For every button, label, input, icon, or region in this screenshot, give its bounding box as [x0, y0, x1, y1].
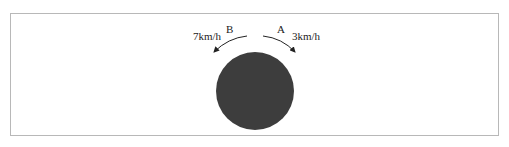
label-point-b: B	[226, 23, 233, 35]
track-circle	[216, 52, 294, 130]
label-point-a: A	[277, 23, 285, 35]
label-speed-a: 3km/h	[292, 30, 320, 42]
arrow-right-clockwise	[263, 36, 295, 52]
label-speed-b: 7km/h	[193, 30, 221, 42]
diagram-canvas	[0, 0, 509, 147]
